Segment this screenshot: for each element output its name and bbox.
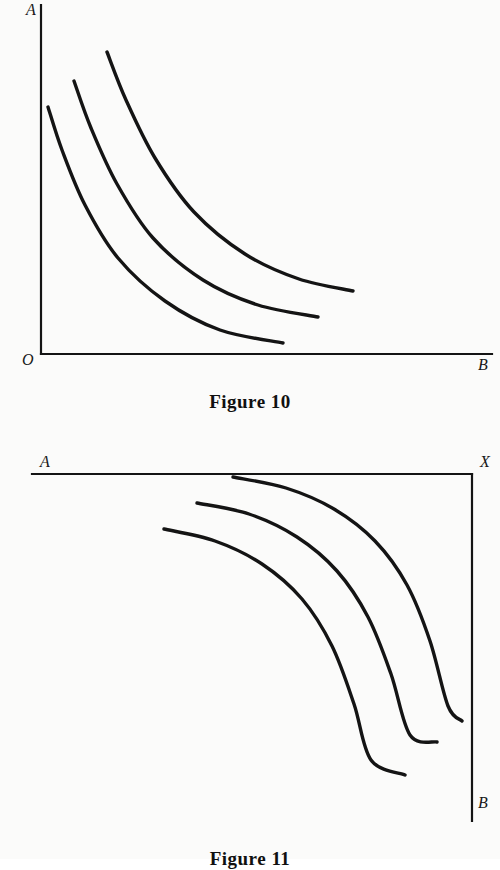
- figure-10-caption: Figure 10: [0, 391, 500, 413]
- figure-11: A X B Figure 11: [0, 430, 500, 859]
- figure-11-svg: [0, 430, 500, 840]
- figure-10-plot: [0, 0, 500, 380]
- figure-10-curve-3: [107, 52, 353, 291]
- figure-11-axis-label-a: A: [40, 454, 50, 470]
- figure-10-curve-1: [48, 107, 283, 343]
- figure-11-curve-3: [164, 529, 405, 775]
- figure-10-axis-label-a: A: [26, 2, 36, 18]
- figure-11-corner-label-x: X: [480, 454, 490, 470]
- figure-10-svg: [0, 0, 500, 380]
- figure-11-curve-2: [197, 503, 437, 742]
- figure-10-axis-label-b: B: [478, 357, 488, 373]
- figure-10: A O B Figure 10: [0, 0, 500, 430]
- figure-10-origin-label: O: [22, 352, 34, 368]
- figure-11-plot: [0, 430, 500, 840]
- figure-10-curve-2: [74, 81, 318, 317]
- figure-11-axis-label-b: B: [478, 795, 488, 811]
- figure-11-caption: Figure 11: [0, 848, 500, 870]
